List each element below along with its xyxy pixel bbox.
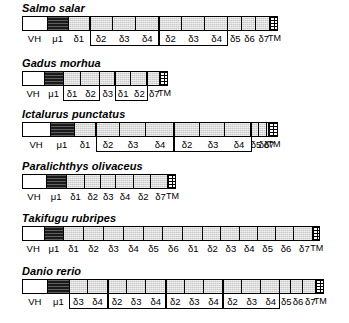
- segment-delta: [166, 280, 185, 293]
- segment-delta: [242, 280, 261, 293]
- segment-delta: [240, 227, 258, 240]
- segment-label: δ4: [134, 32, 160, 45]
- segment-delta: [256, 17, 270, 30]
- segment-mu: [51, 123, 75, 136]
- segment-mu: [45, 227, 64, 240]
- locus-bar: [22, 71, 168, 86]
- segment-label: δ4: [147, 138, 173, 151]
- segment-label: δ2: [157, 32, 183, 45]
- segment-delta: [205, 17, 228, 30]
- segment-mu: [45, 72, 64, 85]
- segment-vh: [23, 280, 48, 293]
- segment-delta: [101, 175, 116, 188]
- segment-delta: [120, 123, 146, 136]
- locus-bar: [22, 279, 324, 294]
- segment-delta: [131, 72, 147, 85]
- segment-delta: [84, 227, 104, 240]
- segment-label: TM: [307, 295, 333, 308]
- segment-delta: [223, 280, 242, 293]
- segment-delta: [182, 17, 205, 30]
- segment-delta: [291, 280, 303, 293]
- segment-tm: [160, 72, 167, 85]
- segment-delta: [146, 280, 166, 293]
- segment-tm: [270, 17, 277, 30]
- segment-delta: [174, 123, 200, 136]
- segment-tm: [168, 175, 175, 188]
- segment-label: TM: [261, 138, 287, 151]
- species-name: Salmo salar: [22, 2, 85, 14]
- species-name: Gadus morhua: [22, 57, 101, 69]
- segment-delta: [70, 280, 88, 293]
- segment-delta: [104, 227, 124, 240]
- segment-vh: [23, 123, 51, 136]
- locus-bar: [22, 174, 176, 189]
- segment-delta: [115, 72, 131, 85]
- segment-delta: [88, 280, 108, 293]
- segment-label: VH: [21, 32, 47, 45]
- segment-delta: [136, 17, 159, 30]
- segment-delta: [96, 123, 120, 136]
- segment-label: TM: [151, 87, 177, 100]
- species-name: Paralichthys olivaceus: [22, 160, 143, 172]
- segment-label: δ2: [174, 138, 200, 151]
- segment-delta: [228, 17, 242, 30]
- segment-delta: [261, 280, 280, 293]
- segment-delta: [183, 227, 203, 240]
- segment-labels: VHμ1δ1δ2δ3δ4δ2δ3δ4δ5δ6δ7TM: [22, 138, 278, 151]
- locus-bar: [22, 16, 278, 31]
- segment-tm: [316, 280, 323, 293]
- segment-delta: [185, 280, 204, 293]
- segment-labels: VHμ1δ3δ4δ2δ3δ4δ2δ3δ4δ2δ3δ4δ5δ6δ7TM: [22, 295, 324, 308]
- segment-label: VH: [22, 295, 48, 308]
- segment-delta: [258, 227, 276, 240]
- segment-label: δ3: [181, 32, 207, 45]
- segment-mu: [48, 17, 69, 30]
- figure-canvas: Salmo salarVHμ1δ1δ2δ3δ4δ2δ3δ4δ5δ6δ7TMGad…: [0, 0, 349, 323]
- locus-bar: [22, 226, 320, 241]
- segment-delta: [85, 175, 101, 188]
- segment-labels: VHμ1δ1δ2δ3δ4δ2δ3δ4δ5δ6δ7TM: [22, 32, 278, 45]
- segment-delta: [163, 227, 183, 240]
- segment-tm: [313, 227, 319, 240]
- segment-delta: [200, 123, 226, 136]
- segment-vh: [23, 72, 45, 85]
- segment-delta: [64, 72, 81, 85]
- segment-delta: [100, 72, 115, 85]
- segment-vh: [23, 17, 48, 30]
- segment-label: TM: [261, 32, 287, 45]
- segment-delta: [108, 280, 127, 293]
- segment-delta: [221, 227, 239, 240]
- segment-delta: [203, 227, 221, 240]
- segment-delta: [147, 72, 160, 85]
- segment-delta: [204, 280, 223, 293]
- segment-delta: [146, 123, 174, 136]
- segment-delta: [69, 17, 90, 30]
- segment-label: δ3: [120, 138, 146, 151]
- segment-label: TM: [304, 242, 330, 255]
- segment-delta: [280, 280, 292, 293]
- segment-delta: [251, 123, 259, 136]
- segment-delta: [75, 123, 97, 136]
- segment-label: δ2: [88, 32, 114, 45]
- segment-delta: [303, 280, 316, 293]
- segment-delta: [259, 123, 267, 136]
- segment-delta: [225, 123, 251, 136]
- segment-vh: [23, 227, 45, 240]
- segment-delta: [124, 227, 144, 240]
- segment-label: δ3: [111, 32, 137, 45]
- segment-delta: [67, 175, 85, 188]
- segment-delta: [151, 175, 168, 188]
- segment-delta: [116, 175, 134, 188]
- locus-bar: [22, 122, 278, 137]
- segment-delta: [294, 227, 312, 240]
- segment-label: δ2: [95, 138, 121, 151]
- species-name: Ictalurus punctatus: [22, 108, 125, 120]
- segment-vh: [23, 175, 47, 188]
- segment-delta: [81, 72, 100, 85]
- segment-label: VH: [23, 138, 49, 151]
- segment-delta: [113, 17, 136, 30]
- segment-label: TM: [159, 190, 185, 203]
- segment-mu: [47, 175, 67, 188]
- species-name: Takifugu rubripes: [22, 212, 116, 224]
- species-name: Danio rerio: [22, 265, 81, 277]
